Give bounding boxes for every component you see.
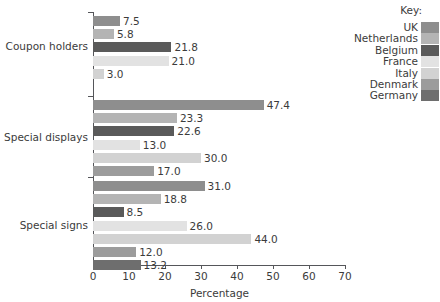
y-axis-tick xyxy=(88,177,93,178)
x-axis-tick-label: 70 xyxy=(338,270,351,282)
bar xyxy=(93,234,251,244)
bar xyxy=(93,69,104,79)
x-axis-tick xyxy=(237,265,238,269)
bar-value-label: 3.0 xyxy=(107,69,124,79)
x-axis-tick xyxy=(345,265,346,269)
legend-title: Key: xyxy=(330,4,422,16)
legend-color-swatch xyxy=(421,22,439,33)
bar-value-label: 12.0 xyxy=(139,247,162,257)
legend-item-denmark[interactable]: Denmark xyxy=(330,79,440,90)
bar xyxy=(93,140,140,150)
bar-value-label: 13.0 xyxy=(143,140,166,150)
bar xyxy=(93,56,169,66)
x-axis-tick-label: 40 xyxy=(230,270,243,282)
y-axis-tick xyxy=(88,96,93,97)
bar-value-label: 18.8 xyxy=(164,194,187,204)
x-axis-tick xyxy=(201,265,202,269)
legend-item-label: UK xyxy=(330,22,418,33)
bar xyxy=(93,113,177,123)
legend-item-france[interactable]: France xyxy=(330,56,440,67)
legend-item-belgium[interactable]: Belgium xyxy=(330,45,440,56)
legend-item-label: Denmark xyxy=(330,79,418,90)
legend-color-swatch xyxy=(421,56,439,67)
bar-value-label: 47.4 xyxy=(267,100,290,110)
legend-color-swatch xyxy=(421,79,439,90)
bar xyxy=(93,42,171,52)
bar-value-label: 17.0 xyxy=(157,166,180,176)
bar xyxy=(93,153,201,163)
legend-item-label: France xyxy=(330,56,418,67)
x-axis-tick xyxy=(309,265,310,269)
legend-item-label: Italy xyxy=(330,68,418,79)
bar xyxy=(93,166,154,176)
x-axis-tick xyxy=(273,265,274,269)
category-label: Coupon holders xyxy=(6,40,88,52)
x-axis-tick-label: 0 xyxy=(90,270,97,282)
x-axis-tick-label: 50 xyxy=(266,270,279,282)
legend-item-italy[interactable]: Italy xyxy=(330,68,440,79)
bar xyxy=(93,16,120,26)
bar-value-label: 23.3 xyxy=(180,113,203,123)
bar-value-label: 26.0 xyxy=(190,221,213,231)
legend-color-swatch xyxy=(421,68,439,79)
x-axis-title: Percentage xyxy=(93,287,346,299)
bar xyxy=(93,181,205,191)
legend-item-germany[interactable]: Germany xyxy=(330,90,440,101)
bar-value-label: 30.0 xyxy=(204,153,227,163)
x-axis-tick-label: 20 xyxy=(158,270,171,282)
legend-color-swatch xyxy=(421,45,439,56)
bar xyxy=(93,126,174,136)
bar-value-label: 7.5 xyxy=(123,16,140,26)
bar-value-label: 21.8 xyxy=(174,42,197,52)
bar-value-label: 5.8 xyxy=(117,29,134,39)
bar-chart: 010203040506070 7.55.821.821.03.047.423.… xyxy=(0,0,440,302)
bar xyxy=(93,194,161,204)
bar-value-label: 22.6 xyxy=(177,126,200,136)
bar-value-label: 13.2 xyxy=(144,260,167,270)
bar xyxy=(93,29,114,39)
legend-color-swatch xyxy=(421,33,439,44)
legend-item-label: Germany xyxy=(330,90,418,101)
legend-item-uk[interactable]: UK xyxy=(330,22,440,33)
bar xyxy=(93,260,141,270)
bar-value-label: 44.0 xyxy=(254,234,277,244)
bar-value-label: 31.0 xyxy=(208,181,231,191)
legend-item-label: Netherlands xyxy=(330,33,418,44)
category-label: Special signs xyxy=(20,219,88,231)
bar-value-label: 8.5 xyxy=(127,207,144,217)
bar xyxy=(93,207,124,217)
x-axis-tick-label: 10 xyxy=(122,270,135,282)
bar xyxy=(93,247,136,257)
bar xyxy=(93,100,264,110)
legend-item-netherlands[interactable]: Netherlands xyxy=(330,33,440,44)
y-axis-tick xyxy=(88,12,93,13)
legend-item-label: Belgium xyxy=(330,45,418,56)
bar xyxy=(93,221,187,231)
category-label: Special displays xyxy=(4,131,88,143)
x-axis-tick-label: 60 xyxy=(302,270,315,282)
x-axis-tick-label: 30 xyxy=(194,270,207,282)
legend-color-swatch xyxy=(421,90,439,101)
bar-value-label: 21.0 xyxy=(172,56,195,66)
